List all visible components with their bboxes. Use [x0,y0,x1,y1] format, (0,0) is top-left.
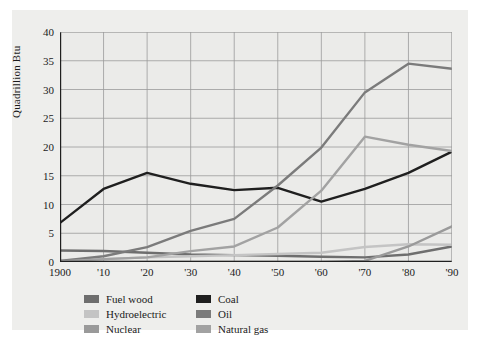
x-tick-label: '70 [358,266,371,278]
line-chart-svg [60,32,452,262]
chart-card: 0510152025303540 Quadrillion Btu 1900'10… [12,10,468,330]
y-tick-label: 15 [26,170,54,182]
legend-item-oil: Oil [196,307,308,321]
y-tick-label: 30 [26,84,54,96]
x-tick-label: '10 [97,266,110,278]
x-tick-label: '90 [446,266,459,278]
y-tick-label: 25 [26,112,54,124]
legend-swatch-icon [196,310,211,318]
legend-label: Fuel wood [106,293,153,305]
y-tick-label: 35 [26,55,54,67]
legend-swatch-icon [84,295,99,303]
x-tick-label: '80 [402,266,415,278]
y-tick-label: 10 [26,199,54,211]
legend-item-fuel-wood: Fuel wood [84,292,196,306]
x-tick-label: '20 [141,266,154,278]
legend-column-1: Fuel woodHydroelectricNuclear [84,292,196,337]
chart-legend: Fuel woodHydroelectricNuclearCoalOilNatu… [84,292,384,337]
legend-label: Coal [218,293,239,305]
x-tick-label: '60 [315,266,328,278]
y-axis-label: Quadrillion Btu [10,46,22,118]
x-tick-label: 1900 [49,266,71,278]
legend-swatch-icon [84,310,99,318]
legend-item-natural-gas: Natural gas [196,322,308,336]
x-axis-ticks: 1900'10'20'30'40'50'60'70'80'90 [60,266,452,282]
x-tick-label: '40 [228,266,241,278]
legend-item-coal: Coal [196,292,308,306]
x-tick-label: '30 [184,266,197,278]
legend-label: Oil [218,308,232,320]
plot-area [60,32,452,262]
legend-swatch-icon [84,325,99,333]
legend-label: Natural gas [218,323,268,335]
y-tick-label: 20 [26,141,54,153]
y-tick-label: 5 [26,227,54,239]
legend-label: Hydroelectric [106,308,166,320]
legend-column-2: CoalOilNatural gas [196,292,308,337]
x-tick-label: '50 [271,266,284,278]
y-axis-ticks: 0510152025303540 [24,32,54,262]
y-tick-label: 40 [26,26,54,38]
legend-label: Nuclear [106,323,141,335]
legend-swatch-icon [196,295,211,303]
legend-swatch-icon [196,325,211,333]
legend-item-hydroelectric: Hydroelectric [84,307,196,321]
legend-item-nuclear: Nuclear [84,322,196,336]
